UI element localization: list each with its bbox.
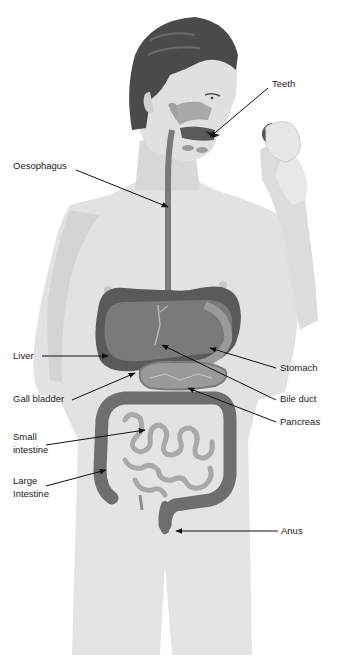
label-pancreas: Pancreas — [280, 416, 320, 428]
label-anus: Anus — [281, 525, 303, 537]
pancreas — [140, 362, 227, 390]
label-bile-duct: Bile duct — [280, 393, 316, 405]
label-gall-bladder: Gall bladder — [13, 393, 64, 405]
liver-stomach — [95, 287, 240, 372]
label-large-intestine-line1: Large — [13, 475, 37, 487]
body-illustration — [0, 0, 337, 666]
label-small-intestine-line2: intestine — [13, 444, 48, 456]
appendix — [140, 495, 142, 510]
digestive-system-diagram: Teeth Oesophagus Liver Stomach Gall blad… — [0, 0, 337, 666]
label-small-intestine-line1: Small — [13, 431, 37, 443]
label-large-intestine-line2: Intestine — [13, 488, 49, 500]
head — [129, 17, 238, 161]
label-oesophagus: Oesophagus — [13, 160, 67, 172]
label-teeth: Teeth — [272, 78, 295, 90]
label-liver: Liver — [13, 350, 34, 362]
label-stomach: Stomach — [280, 362, 318, 374]
